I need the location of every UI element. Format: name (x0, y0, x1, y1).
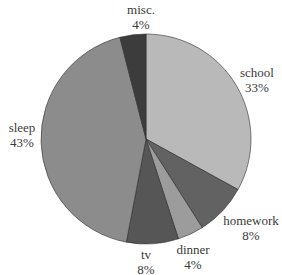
label-dinner: dinner 4% (168, 242, 218, 272)
label-misc: misc. 4% (116, 2, 166, 32)
label-dinner-pct: 4% (168, 257, 218, 272)
label-homework-name: homework (220, 213, 282, 228)
label-sleep-pct: 43% (2, 135, 42, 150)
label-tv-pct: 8% (126, 262, 166, 275)
label-school: school 33% (232, 65, 282, 95)
label-tv-name: tv (126, 247, 166, 262)
label-school-name: school (232, 65, 282, 80)
label-dinner-name: dinner (168, 242, 218, 257)
label-school-pct: 33% (232, 80, 282, 95)
label-tv: tv 8% (126, 247, 166, 275)
label-homework: homework 8% (220, 213, 282, 243)
label-sleep-name: sleep (2, 120, 42, 135)
label-sleep: sleep 43% (2, 120, 42, 150)
label-homework-pct: 8% (220, 228, 282, 243)
label-misc-pct: 4% (116, 17, 166, 32)
label-misc-name: misc. (116, 2, 166, 17)
